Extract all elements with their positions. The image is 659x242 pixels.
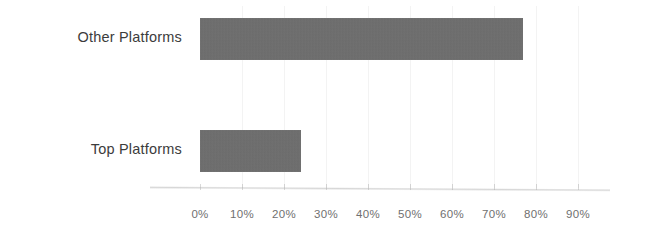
x-tick-label-40: 40% xyxy=(345,208,391,220)
x-tick-label-20: 20% xyxy=(261,208,307,220)
category-label-top-platforms: Top Platforms xyxy=(0,141,182,157)
plot-area xyxy=(200,0,578,188)
gridline-90 xyxy=(578,6,579,188)
tick-mark-30 xyxy=(326,184,327,190)
x-tick-label-30: 30% xyxy=(303,208,349,220)
x-tick-label-60: 60% xyxy=(429,208,475,220)
bar-other-platforms xyxy=(200,18,523,60)
tick-mark-20 xyxy=(284,184,285,190)
category-label-other-platforms: Other Platforms xyxy=(0,29,182,45)
tick-mark-0 xyxy=(200,184,201,190)
tick-mark-50 xyxy=(410,184,411,190)
x-tick-label-80: 80% xyxy=(513,208,559,220)
gridline-80 xyxy=(536,6,537,188)
tick-mark-80 xyxy=(536,184,537,190)
tick-mark-40 xyxy=(368,184,369,190)
tick-mark-90 xyxy=(578,184,579,190)
bar-top-platforms xyxy=(200,130,301,172)
bar-chart: Other Platforms Top Platforms 0%10%20%30… xyxy=(0,0,659,242)
x-tick-label-50: 50% xyxy=(387,208,433,220)
x-tick-label-70: 70% xyxy=(471,208,517,220)
x-tick-label-0: 0% xyxy=(177,208,223,220)
x-tick-label-90: 90% xyxy=(555,208,601,220)
tick-mark-70 xyxy=(494,184,495,190)
tick-mark-60 xyxy=(452,184,453,190)
tick-mark-10 xyxy=(242,184,243,190)
x-tick-label-10: 10% xyxy=(219,208,265,220)
